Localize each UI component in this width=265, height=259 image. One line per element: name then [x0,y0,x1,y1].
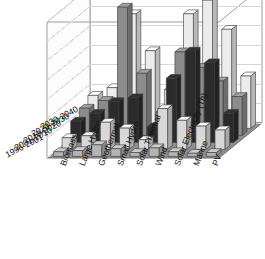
chart-3d-bar: 00,050,10,150,20,250,30,35 1996-20012001… [0,0,265,259]
bar [215,126,230,149]
bar [158,105,173,150]
